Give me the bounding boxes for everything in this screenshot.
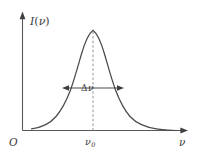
spectral-line-profile-figure: I(ν) O ν ν0 Δν <box>0 0 198 158</box>
center-frequency-symbol: ν <box>85 136 91 147</box>
axes-group <box>20 12 188 134</box>
linewidth-label: Δν <box>81 83 94 93</box>
linewidth-delta-symbol: Δ <box>81 83 88 93</box>
center-frequency-subscript: 0 <box>91 141 95 149</box>
linewidth-right-arrowhead-icon <box>117 85 124 90</box>
plot-canvas: I(ν) O ν ν0 Δν <box>0 0 198 158</box>
center-frequency-label: ν0 <box>85 136 95 149</box>
intensity-curve <box>32 30 177 130</box>
linewidth-left-arrowhead-icon <box>62 85 69 90</box>
curve-group <box>32 30 177 130</box>
y-axis-arrowhead-icon <box>20 12 26 20</box>
linewidth-nu-symbol: ν <box>88 83 94 93</box>
x-axis-label: ν <box>179 136 186 148</box>
y-axis-label: I(ν) <box>29 15 50 28</box>
origin-label: O <box>9 136 18 148</box>
x-axis-arrowhead-icon <box>180 128 188 134</box>
